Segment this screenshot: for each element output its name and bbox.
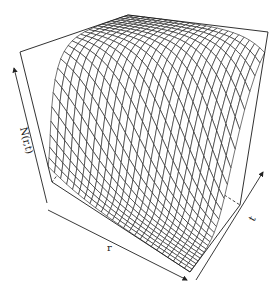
surface-plot: N(r,t) r t <box>0 0 279 295</box>
box-edge <box>20 52 52 182</box>
y-axis-label: t <box>246 214 258 223</box>
surface-mesh <box>48 15 265 272</box>
z-axis-label: N(r,t) <box>18 126 35 155</box>
surface-plot-canvas: N(r,t) r t <box>0 0 279 295</box>
x-axis-label: r <box>107 242 112 253</box>
